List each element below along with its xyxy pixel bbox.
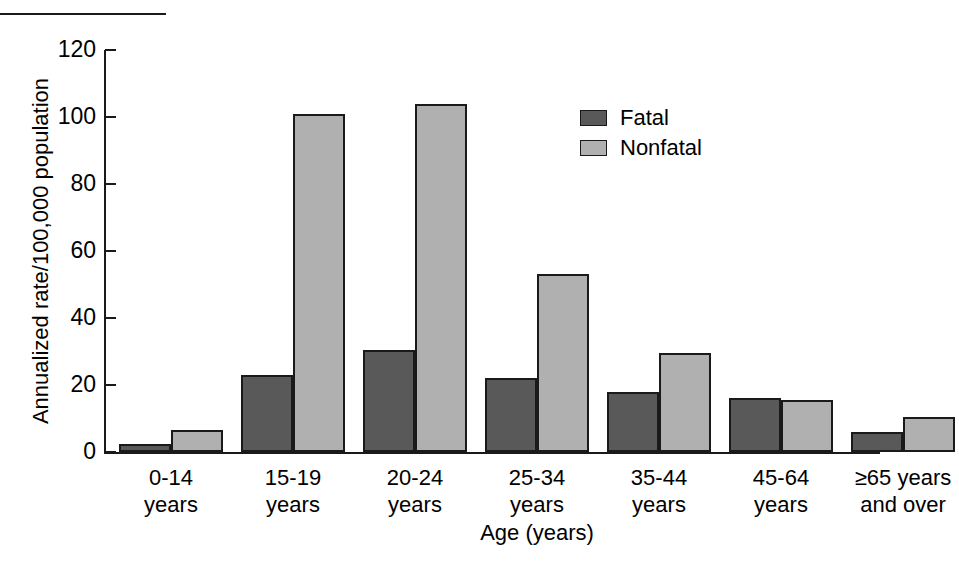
x-axis-group-label: ≥65 yearsand over bbox=[818, 464, 959, 518]
legend-swatch bbox=[580, 110, 607, 126]
top-rule-divider bbox=[0, 13, 166, 15]
chart-legend: FatalNonfatal bbox=[580, 103, 702, 163]
y-axis-tick-label: 0 bbox=[40, 440, 96, 463]
legend-label: Fatal bbox=[620, 107, 669, 129]
legend-item: Fatal bbox=[580, 103, 702, 133]
x-axis-title: Age (years) bbox=[387, 522, 687, 544]
bar-nonfatal bbox=[293, 114, 345, 452]
y-axis-tick-label: 60 bbox=[40, 239, 96, 262]
bar-nonfatal bbox=[659, 353, 711, 452]
bar-nonfatal bbox=[415, 104, 467, 452]
legend-swatch bbox=[580, 140, 607, 156]
bar-fatal bbox=[851, 432, 903, 452]
y-axis-tick-label: 120 bbox=[40, 38, 96, 61]
x-axis-line bbox=[105, 452, 880, 454]
y-axis-tick-label: 80 bbox=[40, 172, 96, 195]
x-axis-group-label-line: and over bbox=[818, 491, 959, 518]
y-axis-tick-label: 20 bbox=[40, 373, 96, 396]
bar-nonfatal bbox=[537, 274, 589, 452]
bar-nonfatal bbox=[781, 400, 833, 452]
bar-fatal bbox=[241, 375, 293, 452]
y-axis-tick-label: 100 bbox=[40, 105, 96, 128]
legend-label: Nonfatal bbox=[620, 137, 702, 159]
bar-fatal bbox=[119, 444, 171, 452]
x-axis-group-label-line: ≥65 years bbox=[818, 464, 959, 491]
bar-fatal bbox=[363, 350, 415, 452]
bar-fatal bbox=[485, 378, 537, 452]
bar-fatal bbox=[607, 392, 659, 452]
bar-nonfatal bbox=[903, 417, 955, 452]
bar-fatal bbox=[729, 398, 781, 452]
bar-nonfatal bbox=[171, 430, 223, 452]
legend-item: Nonfatal bbox=[580, 133, 702, 163]
y-axis-tick-label: 40 bbox=[40, 306, 96, 329]
plot-area bbox=[105, 50, 880, 452]
